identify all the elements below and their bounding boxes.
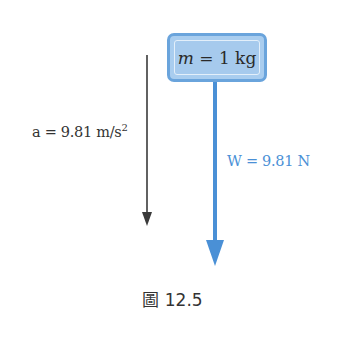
weight-arrow: [206, 82, 224, 266]
mass-equals: =: [194, 48, 219, 68]
acceleration-label: a = 9.81 m/s2: [32, 122, 127, 140]
acceleration-arrow: [142, 55, 152, 226]
acceleration-exponent: 2: [121, 122, 127, 133]
mass-variable: m: [178, 48, 194, 68]
figure-caption: 圖 12.5: [0, 286, 345, 311]
free-body-diagram: m = 1 kg a = 9.81 m/s2 W = 9.81 N 圖 12.5: [0, 0, 345, 352]
mass-label: m = 1 kg: [174, 40, 260, 75]
mass-block: m = 1 kg: [167, 33, 267, 82]
acceleration-text: a = 9.81 m/s: [32, 124, 121, 140]
mass-value: 1 kg: [219, 48, 256, 68]
weight-label: W = 9.81 N: [227, 153, 310, 169]
